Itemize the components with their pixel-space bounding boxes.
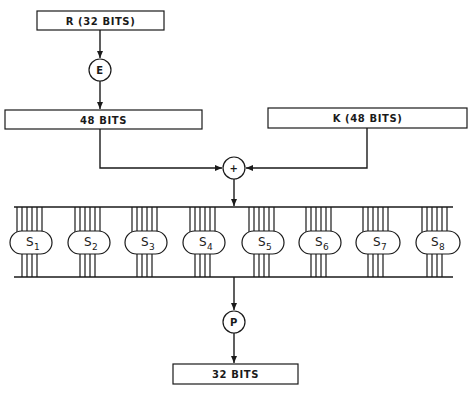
sbox-3: S 3 xyxy=(125,207,167,277)
input-box-label: R (32 BITS) xyxy=(66,16,136,27)
expanded-box-label: 48 BITS xyxy=(80,115,127,126)
expansion-node: E xyxy=(89,59,111,81)
sbox-1-subscript: 1 xyxy=(34,242,40,252)
sbox-1-label: S xyxy=(26,235,34,249)
sbox-5-subscript: 5 xyxy=(266,242,272,252)
expansion-label: E xyxy=(96,65,103,76)
sbox-7: S 7 xyxy=(356,207,400,277)
sbox-4: S 4 xyxy=(183,207,225,277)
arrow-48bits-to-xor xyxy=(100,129,222,168)
sbox-5-label: S xyxy=(258,235,266,249)
expanded-box: 48 BITS xyxy=(5,110,202,129)
arrow-key-to-xor xyxy=(246,128,367,168)
output-box: 32 BITS xyxy=(173,364,298,384)
sbox-6-label: S xyxy=(315,235,323,249)
xor-node: + xyxy=(223,157,245,179)
key-box-label: K (48 BITS) xyxy=(333,113,403,124)
sbox-4-label: S xyxy=(199,235,207,249)
sbox-7-label: S xyxy=(373,235,381,249)
sbox-8-subscript: 8 xyxy=(439,242,445,252)
sbox-row: S 1 S 2 S 3 xyxy=(10,207,460,277)
permutation-label: P xyxy=(230,317,238,328)
sbox-1: S 1 xyxy=(10,207,52,277)
sbox-7-subscript: 7 xyxy=(381,242,387,252)
sbox-8-label: S xyxy=(431,235,439,249)
sbox-2: S 2 xyxy=(68,207,110,277)
sbox-5: S 5 xyxy=(242,207,284,277)
sbox-6-subscript: 6 xyxy=(323,242,329,252)
des-f-function-diagram: R (32 BITS) E 48 BITS K (48 BITS) + xyxy=(0,0,474,394)
sbox-4-subscript: 4 xyxy=(207,242,213,252)
sbox-8: S 8 xyxy=(416,207,460,277)
key-box: K (48 BITS) xyxy=(268,108,467,128)
xor-label: + xyxy=(230,163,239,174)
sbox-2-label: S xyxy=(84,235,92,249)
sbox-6: S 6 xyxy=(299,207,341,277)
sbox-3-subscript: 3 xyxy=(149,242,155,252)
sbox-3-label: S xyxy=(141,235,149,249)
input-box-r: R (32 BITS) xyxy=(37,11,164,30)
permutation-node: P xyxy=(223,311,245,333)
sbox-2-subscript: 2 xyxy=(92,242,98,252)
output-box-label: 32 BITS xyxy=(212,369,259,380)
